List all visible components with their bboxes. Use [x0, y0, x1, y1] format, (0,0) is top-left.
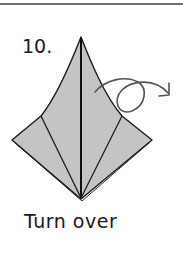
instruction-caption: Turn over [24, 210, 117, 232]
origami-diagram [0, 0, 183, 276]
